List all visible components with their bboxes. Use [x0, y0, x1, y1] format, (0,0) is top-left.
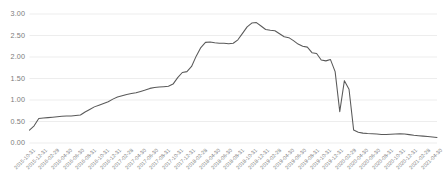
series-line: [30, 23, 438, 138]
gridlines: [30, 14, 438, 143]
data-series-group: [30, 23, 438, 138]
